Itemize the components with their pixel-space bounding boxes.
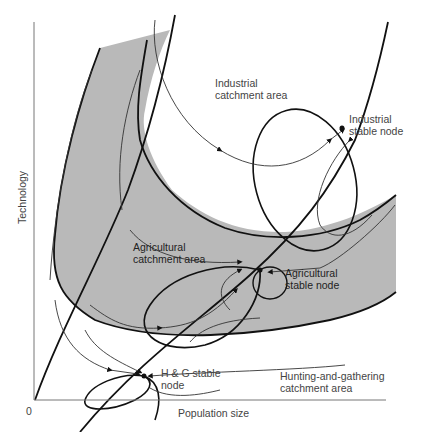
- label-industrial-catchment: Industrial catchment area: [215, 77, 287, 101]
- label-hg-node: H & G stable node: [161, 367, 221, 391]
- label-agricultural-catchment: Agricultural catchment area: [133, 241, 205, 265]
- agricultural-node-dot: [258, 268, 263, 273]
- y-axis-title: Technology: [16, 171, 28, 224]
- flow-9: [85, 330, 140, 372]
- industrial-node-dot: [340, 126, 345, 131]
- agricultural-band: [54, 30, 396, 335]
- label-hunting-catchment: Hunting-and-gathering catchment area: [280, 370, 385, 394]
- hg-node-dot: [142, 374, 147, 379]
- label-industrial-node: Industrial stable node: [349, 113, 403, 137]
- label-agricultural-node: Agricultural stable node: [285, 267, 339, 291]
- hg-side: [144, 376, 159, 420]
- origin-label: 0: [26, 405, 32, 417]
- x-axis-title: Population size: [178, 407, 249, 419]
